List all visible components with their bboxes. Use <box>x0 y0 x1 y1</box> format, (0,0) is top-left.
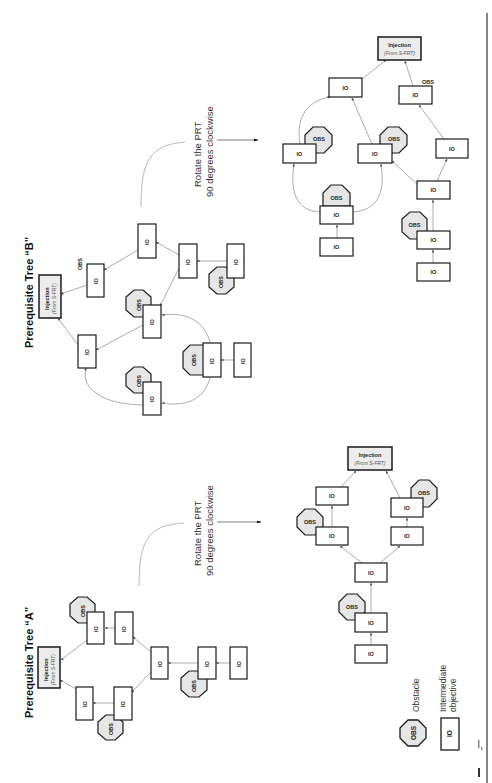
svg-text:IO: IO <box>120 700 126 707</box>
rotate-text-line1: Rotate the PRT <box>192 500 203 566</box>
io-node: IO <box>87 612 104 644</box>
io-node: IO <box>230 647 247 679</box>
rotate-text-line2: 90 degrees clockwise <box>204 106 215 197</box>
svg-text:IO: IO <box>329 493 336 499</box>
svg-text:IO: IO <box>149 395 155 402</box>
svg-text:IO: IO <box>144 238 150 245</box>
io-node: IO <box>203 343 221 377</box>
legend: OBS Obstacle IO Intermediate objective <box>400 664 459 750</box>
io-node: IO <box>138 224 156 258</box>
rotate-instruction-a: Rotate the PRT 90 degrees clockwise <box>139 485 261 586</box>
svg-text:OBS: OBS <box>346 604 358 610</box>
svg-text:IO: IO <box>240 357 246 364</box>
io-node: IO <box>78 335 96 368</box>
svg-text:IO: IO <box>431 187 438 193</box>
svg-text:OBS: OBS <box>418 490 430 496</box>
io-node: IO <box>198 647 216 679</box>
svg-text:IO: IO <box>431 237 438 243</box>
svg-text:IO: IO <box>297 151 304 157</box>
rotate-instruction-b: Rotate the PRT 90 degrees clockwise <box>141 106 258 207</box>
io-node: IO <box>358 144 392 163</box>
svg-text:OBS: OBS <box>80 605 86 617</box>
svg-text:IO: IO <box>329 533 336 539</box>
io-node: IO <box>283 144 316 163</box>
svg-text:IO: IO <box>121 625 127 632</box>
legend-io-label-line1: Intermediate <box>438 664 448 712</box>
io-node: IO <box>179 244 197 278</box>
io-node: IO <box>391 498 423 517</box>
svg-text:IO: IO <box>93 625 99 632</box>
svg-text:IO: IO <box>368 570 375 576</box>
io-node: IO <box>76 687 93 720</box>
tree-b-original: Injection (From S-FRT) IO OBS IO IO OBS … <box>39 224 251 415</box>
svg-text:OBS: OBS <box>191 354 197 366</box>
io-node: IO <box>436 139 468 158</box>
svg-text:IO: IO <box>404 533 411 539</box>
svg-text:(From S-FRT): (From S-FRT) <box>51 283 57 314</box>
svg-text:Injection: Injection <box>43 658 49 681</box>
io-node: IO <box>114 687 132 720</box>
tree-b-title: Prerequisite Tree “B” <box>23 237 35 348</box>
svg-text:OBS: OBS <box>218 276 224 288</box>
io-node: IO <box>151 647 168 679</box>
io-node: IO <box>115 612 133 644</box>
svg-text:IO: IO <box>236 660 242 667</box>
io-node: IO <box>417 181 450 199</box>
svg-text:IO: IO <box>93 277 99 284</box>
io-node: IO <box>227 244 244 278</box>
prt-diagram-canvas: Prerequisite Tree “B” Prerequisite Tree … <box>0 0 492 783</box>
io-node: IO <box>143 382 161 415</box>
rotate-text-line2: 90 degrees clockwise <box>204 485 215 576</box>
io-node: IO <box>399 86 432 104</box>
svg-text:IO: IO <box>84 348 90 355</box>
io-node: IO <box>316 527 348 545</box>
io-node: IO <box>355 613 387 632</box>
tree-a-rotated: Injection (From S-FRT) IO OBS IO OBS IO … <box>297 447 437 663</box>
rotate-text-line1: Rotate the PRT <box>192 121 203 187</box>
svg-text:IO: IO <box>413 92 420 98</box>
io-node: IO <box>87 264 104 297</box>
svg-text:OBS: OBS <box>191 680 197 692</box>
io-node: IO <box>316 487 348 505</box>
io-node: IO <box>320 238 353 256</box>
obstacle-label: OBS <box>77 258 83 270</box>
svg-text:IO: IO <box>404 505 411 511</box>
svg-text:OBS: OBS <box>108 723 114 735</box>
injection-node: Injection (From S-FRT) <box>348 447 392 470</box>
obstacle-node: OBS <box>323 185 350 206</box>
svg-text:(From S-FRT): (From S-FRT) <box>50 654 56 685</box>
io-node: IO <box>417 231 450 249</box>
tree-b-rotated: Injection (From S-FRT) IO OBS IO OBS IO … <box>283 37 468 281</box>
tree-a-original: Injection (From S-FRT) OBS IO IO IO OBS … <box>38 597 247 740</box>
injection-node: Injection (From S-FRT) <box>39 275 61 318</box>
injection-node: Injection (From S-FRT) <box>38 647 60 688</box>
svg-text:Injection: Injection <box>359 452 382 458</box>
svg-text:OBS: OBS <box>136 299 142 311</box>
svg-text:IO: IO <box>368 651 375 657</box>
io-node: IO <box>329 78 362 97</box>
svg-text:OBS: OBS <box>331 195 343 201</box>
svg-text:IO: IO <box>334 244 341 250</box>
svg-text:IO: IO <box>157 660 163 667</box>
svg-text:IO: IO <box>343 85 350 91</box>
legend-io-icon: IO <box>441 718 459 750</box>
svg-text:IO: IO <box>204 660 210 667</box>
svg-text:(From S-FRT): (From S-FRT) <box>354 460 385 466</box>
svg-text:OBS: OBS <box>388 136 400 142</box>
svg-text:IO: IO <box>431 269 438 275</box>
obstacle-label: OBS <box>422 79 434 85</box>
svg-text:IO: IO <box>449 146 456 152</box>
io-node: IO <box>355 563 387 582</box>
svg-text:OBS: OBS <box>409 222 421 228</box>
io-node: IO <box>391 527 423 545</box>
svg-text:Injection: Injection <box>44 287 50 310</box>
svg-text:Injection: Injection <box>388 42 411 48</box>
svg-text:OBS: OBS <box>304 519 316 525</box>
tree-a-title: Prerequisite Tree “A” <box>23 607 35 718</box>
svg-text:OBS: OBS <box>313 136 325 142</box>
svg-text:IO: IO <box>334 212 341 218</box>
svg-text:(From S-FRT): (From S-FRT) <box>384 50 415 56</box>
io-node: IO <box>143 305 161 338</box>
svg-text:IO: IO <box>209 357 215 364</box>
io-node: IO <box>355 645 387 663</box>
